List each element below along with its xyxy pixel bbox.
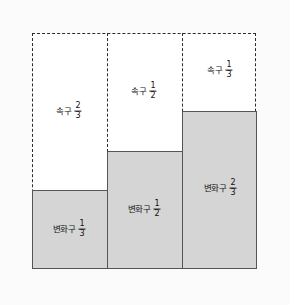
bar-column-2-breaking (107, 151, 183, 270)
plot-area: 속구 2 3 속구 1 2 속구 1 3 변화구 1 3 (32, 33, 256, 268)
bar-column-1-breaking (32, 190, 108, 269)
bar-column-3-breaking (182, 111, 257, 269)
figure-canvas: 속구 2 3 속구 1 2 속구 1 3 변화구 1 3 (0, 0, 290, 305)
